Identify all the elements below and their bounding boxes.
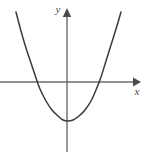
x-axis-label: x <box>134 85 140 97</box>
parabola-figure: y x <box>0 0 150 158</box>
coordinate-plane-svg: y x <box>0 0 150 158</box>
y-axis-label: y <box>55 3 61 15</box>
figure-background <box>0 0 150 158</box>
